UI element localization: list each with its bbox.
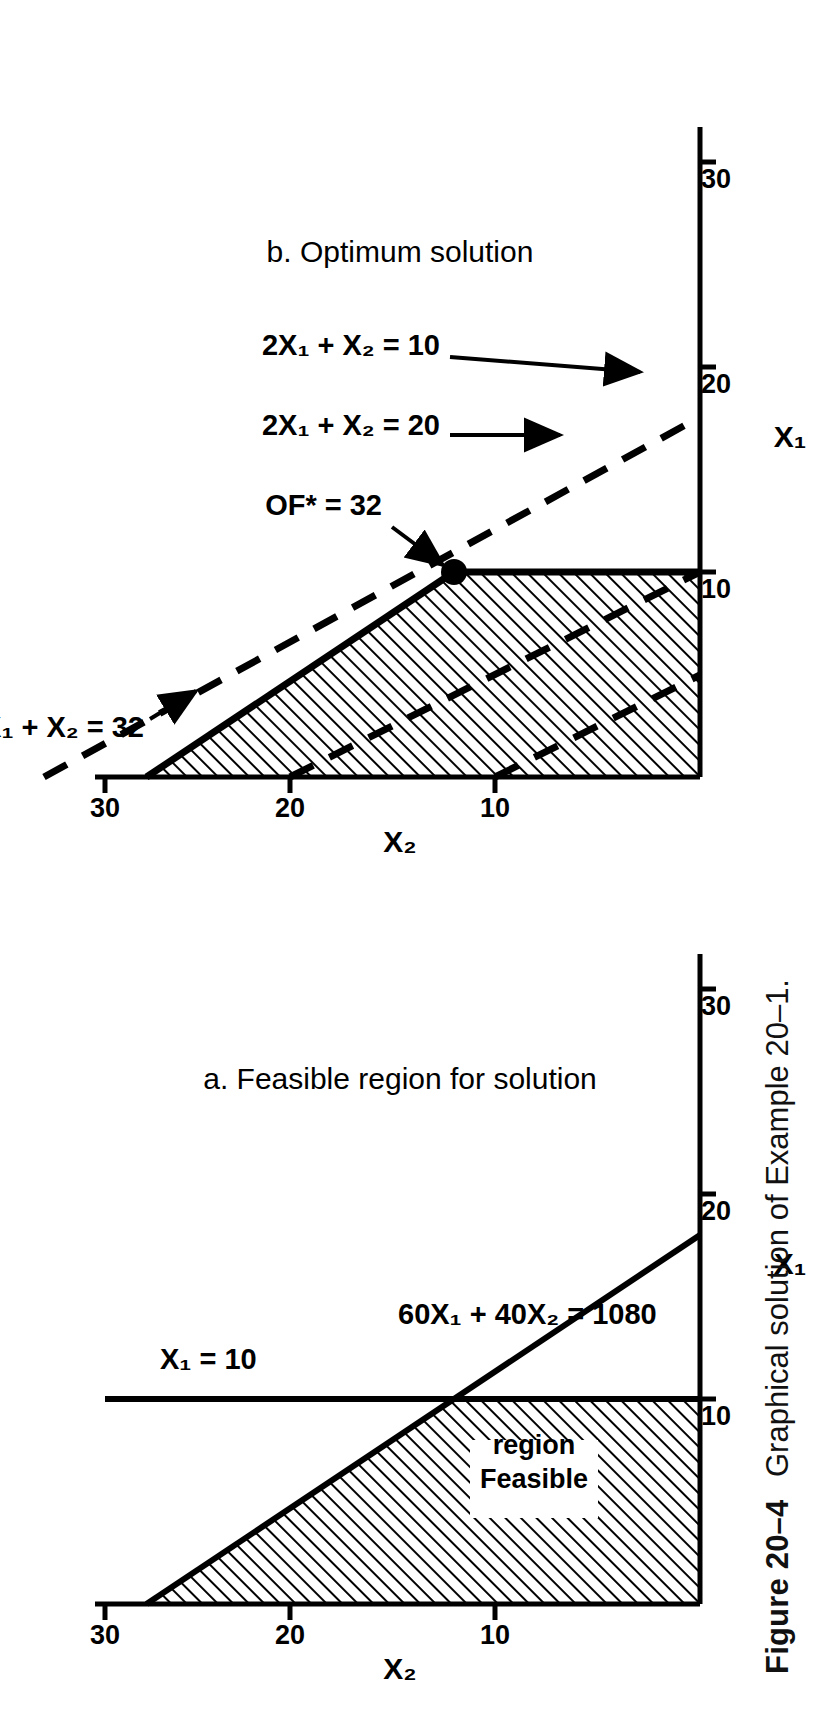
panel-b-chart: 10 20 30 10 20 30 X₁ X₂ 2X₁ + X₂ = 32 OF…: [0, 60, 827, 887]
annotation-iso-profit-20: 2X₁ + X₂ = 20: [262, 409, 440, 441]
figure-stage: 10 20 30 10 20 30 X₁ X₂ X₁ = 10 60X₁ + 4…: [0, 0, 827, 1714]
y-tick-label-30: 30: [90, 793, 120, 823]
y-axis-label: X₂: [383, 825, 416, 858]
x-tick-label-10: 10: [701, 1401, 731, 1431]
optimum-point-marker: [441, 559, 467, 585]
y-tick-label-10: 10: [480, 793, 510, 823]
feasible-region-shading: [147, 1399, 701, 1604]
annotation-optimum-of: OF* = 32: [265, 489, 382, 521]
annotation-iso-profit-32: 2X₁ + X₂ = 32: [0, 711, 144, 743]
y-tick-label-20: 20: [275, 1620, 305, 1650]
x-tick-label-10: 10: [701, 574, 731, 604]
panel-b-optimum-solution: 10 20 30 10 20 30 X₁ X₂ 2X₁ + X₂ = 32 OF…: [0, 60, 827, 887]
feasible-region-label-line1: Feasible: [480, 1464, 588, 1494]
figure-caption-block: Figure 20–4 Graphical solution of Exampl…: [760, 674, 820, 1674]
x-tick-label-20: 20: [701, 1196, 731, 1226]
x-tick-label-30: 30: [701, 164, 731, 194]
leader-arrow-optimum: [392, 527, 443, 565]
x-axis-label: X₁: [774, 420, 806, 453]
feasible-region-shading: [147, 572, 701, 777]
y-tick-label-20: 20: [275, 793, 305, 823]
panel-a-feasible-region: 10 20 30 10 20 30 X₁ X₂ X₁ = 10 60X₁ + 4…: [0, 887, 827, 1714]
x-tick-label-20: 20: [701, 369, 731, 399]
leader-arrow-iso32: [150, 691, 196, 719]
panel-a-chart: 10 20 30 10 20 30 X₁ X₂ X₁ = 10 60X₁ + 4…: [0, 887, 827, 1714]
panel-a-caption: a. Feasible region for solution: [203, 1062, 597, 1095]
y-tick-label-30: 30: [90, 1620, 120, 1650]
figure-number: Figure 20–4: [760, 1499, 795, 1674]
x-tick-label-30: 30: [701, 991, 731, 1021]
y-axis-label: X₂: [383, 1652, 416, 1685]
annotation-resource-equation: 60X₁ + 40X₂ = 1080: [398, 1298, 657, 1330]
annotation-x1-equals-10: X₁ = 10: [160, 1343, 257, 1375]
annotation-iso-profit-10: 2X₁ + X₂ = 10: [262, 329, 440, 361]
feasible-region-label-line2: region: [493, 1430, 576, 1460]
panel-b-caption: b. Optimum solution: [267, 235, 534, 268]
leader-arrow-iso10: [450, 357, 640, 372]
figure-caption-text: Graphical solution of Example 20–1.: [760, 979, 795, 1477]
y-tick-label-10: 10: [480, 1620, 510, 1650]
